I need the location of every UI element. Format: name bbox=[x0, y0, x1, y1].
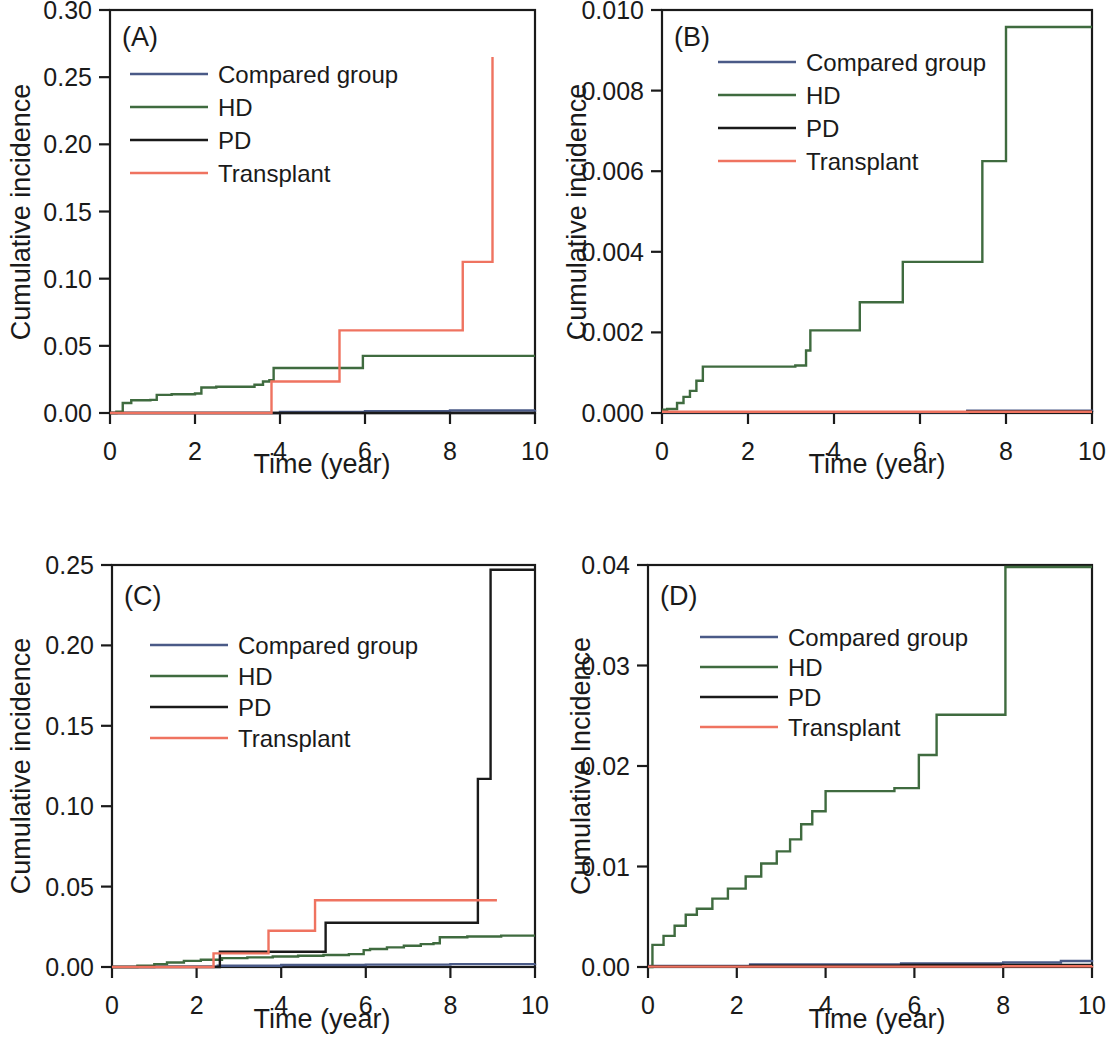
y-tick-label: 0.000 bbox=[581, 399, 644, 427]
x-tick-label: 8 bbox=[443, 991, 457, 1019]
x-tick-label: 10 bbox=[521, 437, 549, 465]
y-tick-label: 0.010 bbox=[581, 0, 644, 24]
curve-compared-group bbox=[662, 410, 1092, 412]
x-tick-label: 0 bbox=[641, 991, 655, 1019]
x-tick-label: 2 bbox=[741, 437, 755, 465]
y-tick-label: 0.002 bbox=[581, 318, 644, 346]
curve-pd bbox=[112, 570, 535, 967]
x-tick-label: 2 bbox=[730, 991, 744, 1019]
curve-compared-group bbox=[112, 964, 535, 967]
x-tick-label: 8 bbox=[443, 437, 457, 465]
legend-label-pd: PD bbox=[238, 694, 271, 721]
x-tick-label: 0 bbox=[105, 991, 119, 1019]
y-tick-label: 0.00 bbox=[581, 953, 630, 981]
x-tick-label: 10 bbox=[1078, 991, 1106, 1019]
legend-label-compared-group: Compared group bbox=[788, 624, 968, 651]
x-tick-label: 0 bbox=[103, 437, 117, 465]
x-tick-label: 8 bbox=[996, 991, 1010, 1019]
figure-root: 02468100.000.050.100.150.200.250.30Time … bbox=[0, 0, 1115, 1056]
legend-label-transplant: Transplant bbox=[218, 160, 331, 187]
y-axis-title: Cumulative incidence bbox=[562, 84, 592, 341]
x-tick-label: 10 bbox=[1078, 437, 1106, 465]
y-tick-label: 0.30 bbox=[43, 0, 92, 24]
y-tick-label: 0.10 bbox=[43, 265, 92, 293]
curve-hd bbox=[662, 27, 1092, 410]
plot-frame bbox=[110, 10, 535, 413]
y-tick-label: 0.20 bbox=[43, 130, 92, 158]
curve-transplant bbox=[110, 57, 493, 413]
curve-pd bbox=[648, 964, 1092, 966]
y-tick-label: 0.25 bbox=[43, 63, 92, 91]
y-tick-label: 0.20 bbox=[45, 631, 94, 659]
curve-compared-group bbox=[648, 960, 1092, 966]
x-axis-title: Time (year) bbox=[808, 1004, 945, 1034]
x-tick-label: 2 bbox=[188, 437, 202, 465]
panel-label: (A) bbox=[122, 22, 158, 52]
x-tick-label: 8 bbox=[999, 437, 1013, 465]
x-tick-label: 0 bbox=[655, 437, 669, 465]
y-axis-title: Cumulative incidence bbox=[6, 638, 36, 895]
legend-label-pd: PD bbox=[788, 684, 821, 711]
y-tick-label: 0.25 bbox=[45, 551, 94, 579]
legend-label-transplant: Transplant bbox=[788, 714, 901, 741]
y-axis-title: Cumulative incidence bbox=[6, 84, 36, 341]
legend-label-compared-group: Compared group bbox=[218, 61, 398, 88]
x-tick-label: 4 bbox=[827, 437, 841, 465]
y-tick-label: 0.15 bbox=[45, 712, 94, 740]
x-tick-label: 4 bbox=[273, 437, 287, 465]
curve-hd bbox=[110, 356, 535, 413]
y-tick-label: 0.008 bbox=[581, 77, 644, 105]
x-tick-label: 4 bbox=[819, 991, 833, 1019]
y-tick-label: 0.15 bbox=[43, 198, 92, 226]
plot-frame bbox=[662, 10, 1092, 413]
curve-compared-group bbox=[110, 410, 535, 413]
panel-label: (C) bbox=[124, 581, 161, 611]
y-tick-label: 0.10 bbox=[45, 792, 94, 820]
x-tick-label: 2 bbox=[190, 991, 204, 1019]
legend-label-transplant: Transplant bbox=[806, 148, 919, 175]
y-tick-label: 0.05 bbox=[45, 873, 94, 901]
y-tick-label: 0.05 bbox=[43, 332, 92, 360]
curve-transplant bbox=[648, 966, 1092, 967]
curve-hd bbox=[648, 567, 1092, 967]
legend-label-pd: PD bbox=[218, 127, 251, 154]
y-tick-label: 0.01 bbox=[581, 853, 630, 881]
x-tick-label: 4 bbox=[274, 991, 288, 1019]
legend-label-hd: HD bbox=[806, 82, 841, 109]
x-axis-title: Time (year) bbox=[253, 1004, 390, 1034]
legend-label-hd: HD bbox=[218, 94, 253, 121]
y-tick-label: 0.03 bbox=[581, 652, 630, 680]
y-tick-label: 0.00 bbox=[43, 399, 92, 427]
x-axis-title: Time (year) bbox=[253, 449, 390, 479]
curve-hd bbox=[112, 936, 535, 967]
legend-label-compared-group: Compared group bbox=[238, 632, 418, 659]
legend-label-hd: HD bbox=[238, 663, 273, 690]
curve-transplant bbox=[112, 900, 497, 967]
y-tick-label: 0.004 bbox=[581, 238, 644, 266]
curve-pd bbox=[662, 411, 1092, 412]
plot-frame bbox=[112, 565, 535, 967]
x-tick-label: 6 bbox=[358, 437, 372, 465]
legend-label-hd: HD bbox=[788, 654, 823, 681]
x-tick-label: 6 bbox=[913, 437, 927, 465]
legend-label-compared-group: Compared group bbox=[806, 49, 986, 76]
x-axis-title: Time (year) bbox=[808, 449, 945, 479]
y-tick-label: 0.02 bbox=[581, 752, 630, 780]
legend-label-pd: PD bbox=[806, 115, 839, 142]
y-tick-label: 0.00 bbox=[45, 953, 94, 981]
panel-label: (B) bbox=[674, 22, 710, 52]
legend-label-transplant: Transplant bbox=[238, 725, 351, 752]
y-tick-label: 0.04 bbox=[581, 551, 630, 579]
y-tick-label: 0.006 bbox=[581, 157, 644, 185]
panel-label: (D) bbox=[660, 581, 697, 611]
plot-frame bbox=[648, 565, 1092, 967]
x-tick-label: 10 bbox=[521, 991, 549, 1019]
x-tick-label: 6 bbox=[359, 991, 373, 1019]
x-tick-label: 6 bbox=[907, 991, 921, 1019]
y-axis-title: Cumulative Incidence bbox=[566, 637, 596, 895]
